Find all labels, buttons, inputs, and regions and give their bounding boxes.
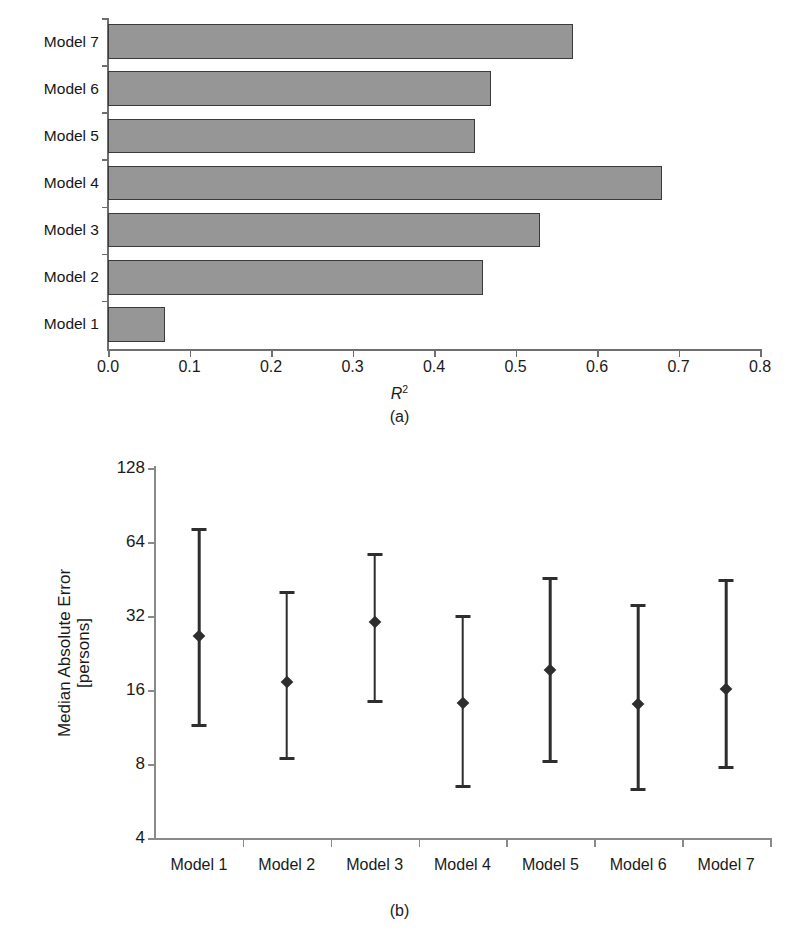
error-bar-stem	[198, 528, 201, 727]
bar-category-label: Model 7	[44, 33, 99, 51]
x-axis-tick	[243, 838, 245, 847]
bar-row: Model 2	[108, 260, 760, 295]
x-axis-tick-label: Model 2	[258, 856, 315, 874]
panel-a-caption: (a)	[0, 408, 799, 426]
error-bar-lower-cap	[367, 700, 382, 703]
x-axis-tick-label: 0.4	[423, 358, 445, 376]
error-bar-lower-cap	[455, 785, 470, 788]
x-axis-tick	[434, 349, 436, 357]
y-axis-tick-label: 8	[136, 754, 145, 774]
x-axis-tick-label: Model 6	[610, 856, 667, 874]
data-point-marker	[632, 698, 645, 711]
x-axis-title-exponent: 2	[402, 383, 408, 395]
figure-container: Model 1Model 2Model 3Model 4Model 5Model…	[0, 0, 799, 948]
bar-category-label: Model 6	[44, 80, 99, 98]
panel-b-caption: (b)	[0, 902, 799, 920]
error-bar-model-6	[623, 468, 653, 838]
x-axis-tick-label: 0.2	[260, 358, 282, 376]
y-axis-tick	[102, 159, 108, 161]
panel-b-x-axis-line	[154, 838, 771, 840]
x-axis-tick	[597, 349, 599, 357]
bar-row: Model 3	[108, 213, 760, 248]
y-axis-tick	[148, 690, 155, 692]
bar-category-label: Model 5	[44, 127, 99, 145]
bar-category-label: Model 3	[44, 221, 99, 239]
x-axis-tick-label: Model 3	[346, 856, 403, 874]
error-bar-model-5	[535, 468, 565, 838]
data-point-marker	[720, 683, 733, 696]
x-axis-tick	[271, 349, 273, 357]
error-bar-model-1	[184, 468, 214, 838]
bar-model-6	[108, 71, 491, 106]
bar-category-label: Model 1	[44, 315, 99, 333]
panel-a-x-axis-title: R2	[0, 383, 799, 403]
y-axis-tick-label: 4	[136, 828, 145, 848]
error-bar-upper-cap	[191, 528, 206, 531]
bar-row: Model 4	[108, 166, 760, 201]
bar-category-label: Model 2	[44, 268, 99, 286]
x-axis-tick-label: Model 1	[170, 856, 227, 874]
error-bar-upper-cap	[631, 604, 646, 607]
error-bar-model-3	[360, 468, 390, 838]
y-axis-tick	[148, 616, 155, 618]
x-axis-tick-label: 0.5	[504, 358, 526, 376]
x-axis-tick-label: 0.3	[341, 358, 363, 376]
y-axis-tick	[148, 838, 155, 840]
panel-b-plot-area: 48163264128	[155, 468, 770, 838]
bar-model-1	[108, 307, 165, 342]
x-axis-tick-label: 0.7	[667, 358, 689, 376]
x-axis-tick	[108, 349, 110, 357]
x-axis-tick	[353, 349, 355, 357]
error-bar-stem	[725, 579, 728, 770]
data-point-marker	[456, 696, 469, 709]
x-axis-tick-label: 0.1	[178, 358, 200, 376]
x-axis-tick-label: Model 5	[522, 856, 579, 874]
error-bar-lower-cap	[191, 724, 206, 727]
y-axis-tick	[148, 542, 155, 544]
error-bar-model-7	[711, 468, 741, 838]
bar-model-2	[108, 260, 483, 295]
x-axis-tick	[594, 838, 596, 847]
x-axis-tick-label: Model 7	[698, 856, 755, 874]
y-axis-tick-label: 64	[126, 532, 145, 552]
y-axis-tick	[102, 207, 108, 209]
bar-row: Model 7	[108, 24, 760, 59]
x-axis-tick-label: 0.0	[97, 358, 119, 376]
y-axis-tick-label: 16	[126, 680, 145, 700]
y-axis-tick	[148, 468, 155, 470]
x-axis-tick	[190, 349, 192, 357]
panel-a-plot-area: Model 1Model 2Model 3Model 4Model 5Model…	[108, 18, 760, 348]
error-bar-lower-cap	[719, 766, 734, 769]
y-axis-tick	[148, 764, 155, 766]
panel-b-y-axis-title: Median Absolute Error[persons]	[55, 468, 85, 838]
y-axis-title-line2: [persons]	[74, 618, 93, 688]
x-axis-tick	[679, 349, 681, 357]
data-point-marker	[368, 615, 381, 628]
x-axis-tick-label: 0.8	[749, 358, 771, 376]
y-axis-tick	[102, 65, 108, 67]
error-bar-upper-cap	[279, 591, 294, 594]
x-axis-title-base: R	[391, 385, 403, 402]
x-axis-tick	[516, 349, 518, 357]
x-axis-tick-label: Model 4	[434, 856, 491, 874]
error-bar-upper-cap	[367, 553, 382, 556]
x-axis-tick	[419, 838, 421, 847]
x-axis-tick	[760, 349, 762, 357]
panel-a-bar-chart: Model 1Model 2Model 3Model 4Model 5Model…	[0, 0, 799, 418]
bar-model-5	[108, 119, 475, 154]
y-axis-tick	[102, 301, 108, 303]
error-bar-lower-cap	[631, 788, 646, 791]
data-point-marker	[544, 664, 557, 677]
bar-model-3	[108, 213, 540, 248]
x-axis-tick	[770, 838, 772, 847]
y-axis-tick-label: 128	[117, 458, 145, 478]
error-bar-upper-cap	[719, 579, 734, 582]
panel-b-error-bar-chart: Median Absolute Error[persons] 481632641…	[0, 440, 799, 948]
x-axis-tick	[331, 838, 333, 847]
bar-model-7	[108, 24, 573, 59]
bar-row: Model 5	[108, 119, 760, 154]
bar-row: Model 6	[108, 71, 760, 106]
y-axis-title-line1: Median Absolute Error	[55, 569, 74, 737]
error-bar-lower-cap	[543, 760, 558, 763]
error-bar-upper-cap	[543, 577, 558, 580]
